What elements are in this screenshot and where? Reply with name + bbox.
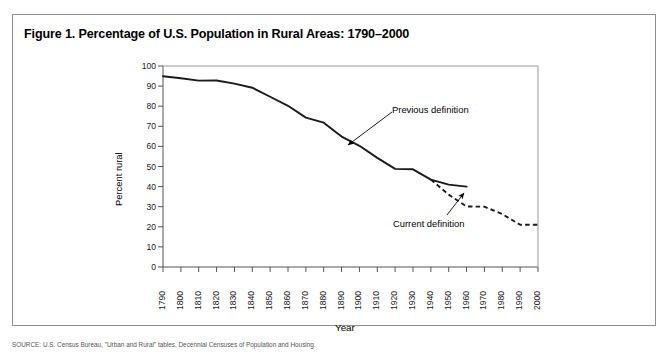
x-tick-label-1980: 1980 (496, 291, 506, 310)
x-tick-label-1910: 1910 (371, 291, 381, 310)
figure-title: Figure 1. Percentage of U.S. Population … (24, 27, 409, 41)
x-tick-label-1960: 1960 (461, 291, 471, 310)
annotation-current-definition: Current definition (393, 218, 464, 229)
y-axis-title: Percent rural (113, 152, 124, 206)
x-tick-label-1870: 1870 (300, 291, 310, 310)
y-tick-label-30: 30 (134, 202, 156, 212)
x-tick-label-1820: 1820 (211, 291, 221, 310)
x-tick-label-1890: 1890 (336, 291, 346, 310)
x-tick-label-2000: 2000 (532, 291, 542, 310)
x-tick-label-1840: 1840 (246, 291, 256, 310)
x-tick-label-1950: 1950 (443, 291, 453, 310)
x-tick-label-1880: 1880 (318, 291, 328, 310)
y-tick-label-100: 100 (134, 61, 156, 71)
x-tick-label-1850: 1850 (264, 291, 274, 310)
y-tick-label-10: 10 (134, 242, 156, 252)
x-tick-label-1800: 1800 (175, 291, 185, 310)
x-tick-label-1810: 1810 (193, 291, 203, 310)
y-tick-label-80: 80 (134, 101, 156, 111)
x-axis-title: Year (335, 322, 355, 333)
x-tick-label-1920: 1920 (389, 291, 399, 310)
x-tick-label-1900: 1900 (353, 291, 363, 310)
x-tick-label-1940: 1940 (425, 291, 435, 310)
x-tick-label-1830: 1830 (228, 291, 238, 310)
y-tick-label-60: 60 (134, 141, 156, 151)
y-tick-label-50: 50 (134, 162, 156, 172)
y-tick-label-20: 20 (134, 222, 156, 232)
x-tick-label-1990: 1990 (514, 291, 524, 310)
y-tick-label-70: 70 (134, 121, 156, 131)
source-note: SOURCE: U.S. Census Bureau, "Urban and R… (12, 341, 316, 348)
y-tick-label-40: 40 (134, 182, 156, 192)
y-tick-label-90: 90 (134, 81, 156, 91)
annotation-previous-definition: Previous definition (392, 104, 469, 115)
x-tick-label-1970: 1970 (478, 291, 488, 310)
x-tick-label-1860: 1860 (282, 291, 292, 310)
x-tick-label-1930: 1930 (407, 291, 417, 310)
x-tick-label-1790: 1790 (157, 291, 167, 310)
figure-frame: Figure 1. Percentage of U.S. Population … (12, 14, 656, 326)
y-tick-label-0: 0 (134, 262, 156, 272)
